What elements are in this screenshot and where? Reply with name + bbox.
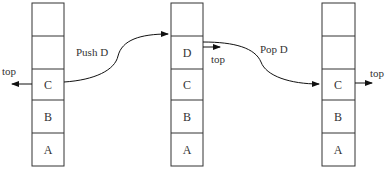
stack-cell: A (334, 143, 343, 157)
stack-diagram: C B A top Push D D C B A top Pop D C (0, 0, 387, 170)
stack-before: C B A top (2, 3, 64, 166)
stack-cell: D (183, 46, 192, 60)
stack-after-pop: C B A top (322, 3, 385, 166)
stack-cell: B (334, 110, 342, 124)
stack-cell: B (44, 110, 52, 124)
top-label: top (2, 65, 17, 77)
stack-cell: A (183, 143, 192, 157)
stack-cell: C (183, 78, 191, 92)
stack-cell: A (44, 143, 53, 157)
stack-after-push: D C B A top (171, 3, 226, 166)
stack-cell: C (334, 78, 342, 92)
stack-cell: B (183, 110, 191, 124)
top-label: top (370, 67, 385, 79)
push-arrow-icon (64, 34, 168, 82)
push-label: Push D (76, 46, 108, 58)
top-label: top (211, 53, 226, 65)
pop-label: Pop D (260, 43, 288, 55)
stack-cell: C (44, 78, 52, 92)
